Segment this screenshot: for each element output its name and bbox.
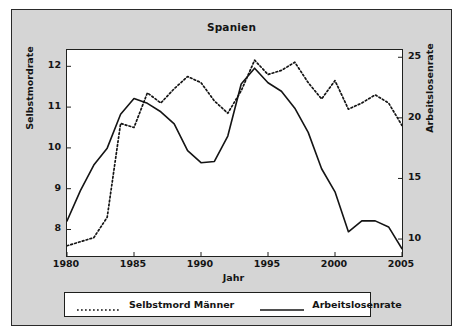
legend-item-selbstmord-maenner: Selbstmord Männer bbox=[77, 293, 234, 316]
legend: Selbstmord Männer Arbeitslosenrate bbox=[64, 292, 371, 317]
axis-tick-marks bbox=[67, 57, 402, 256]
chart-title: Spanien bbox=[0, 21, 463, 33]
y-axis-right-tick-label: 25 bbox=[408, 50, 434, 61]
x-axis-tick-label: 1985 bbox=[113, 258, 153, 269]
y-axis-left-tick-label: 8 bbox=[35, 222, 61, 233]
x-axis-tick-label: 1980 bbox=[46, 258, 86, 269]
x-axis-title: Jahr bbox=[66, 272, 401, 283]
series-line-selbstmord-maenner bbox=[67, 60, 402, 246]
y-axis-left-tick-label: 10 bbox=[35, 141, 61, 152]
series-canvas bbox=[67, 50, 402, 256]
legend-swatch-dotted-icon bbox=[77, 300, 121, 310]
y-axis-left-tick-label: 12 bbox=[35, 59, 61, 70]
x-axis-tick-label: 1995 bbox=[247, 258, 287, 269]
legend-item-arbeitslosenrate: Arbeitslosenrate bbox=[260, 293, 401, 316]
plot-area bbox=[66, 49, 403, 257]
legend-swatch-solid-icon bbox=[260, 300, 304, 310]
x-axis-tick-label: 2000 bbox=[314, 258, 354, 269]
y-axis-left-tick-label: 11 bbox=[35, 100, 61, 111]
legend-label-selbstmord-maenner: Selbstmord Männer bbox=[129, 299, 234, 310]
y-axis-right-tick-label: 15 bbox=[408, 171, 434, 182]
legend-label-arbeitslosenrate: Arbeitslosenrate bbox=[312, 299, 401, 310]
y-axis-left-tick-label: 9 bbox=[35, 182, 61, 193]
x-axis-tick-label: 1990 bbox=[180, 258, 220, 269]
chart-screenshot: Spanien Selbstmordrate Arbeitslosenrate … bbox=[0, 0, 463, 335]
y-axis-right-title: Arbeitslosenrate bbox=[424, 23, 435, 153]
x-axis-tick-label: 2005 bbox=[381, 258, 421, 269]
y-axis-right-tick-label: 20 bbox=[408, 111, 434, 122]
series-line-arbeitslosenrate bbox=[67, 68, 402, 249]
y-axis-left-title: Selbstmordrate bbox=[24, 28, 35, 148]
y-axis-right-tick-label: 10 bbox=[408, 232, 434, 243]
